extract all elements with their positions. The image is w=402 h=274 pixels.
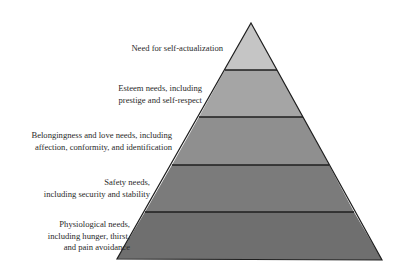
pyramid-level-physiological [117, 212, 382, 260]
label-physiological: Physiological needs, including hunger, t… [48, 219, 130, 254]
label-line: and pain avoidance [48, 242, 130, 254]
label-self-actualization: Need for self-actualization [131, 43, 223, 55]
pyramid-level-safety [145, 165, 354, 212]
label-line: Safety needs, [44, 177, 150, 189]
label-line: including security and stability [44, 189, 150, 201]
pyramid-level-esteem [199, 70, 303, 117]
label-esteem: Esteem needs, including prestige and sel… [118, 83, 202, 106]
label-safety: Safety needs, including security and sta… [44, 177, 150, 200]
label-line: Belongingness and love needs, including [31, 130, 172, 142]
label-line: Need for self-actualization [131, 43, 223, 55]
label-belongingness: Belongingness and love needs, including … [31, 130, 172, 153]
label-line: affection, conformity, and identificatio… [31, 142, 172, 154]
label-line: Physiological needs, [48, 219, 130, 231]
label-line: including hunger, thirst, [48, 231, 130, 243]
label-line: Esteem needs, including [118, 83, 202, 95]
pyramid-level-belongingness [172, 117, 329, 165]
pyramid-level-self-actualization [225, 23, 277, 70]
label-line: prestige and self-respect [118, 95, 202, 107]
